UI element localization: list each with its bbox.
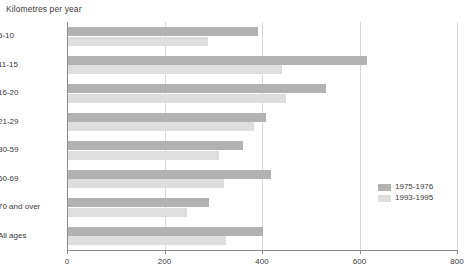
- chart-title: Kilometres per year: [6, 4, 82, 14]
- category-label: 30-59: [0, 145, 60, 154]
- bar: [68, 113, 266, 122]
- bar: [68, 170, 271, 179]
- bar: [68, 236, 226, 245]
- x-tick-label: 400: [255, 257, 268, 266]
- bar: [68, 84, 326, 93]
- bar: [68, 151, 219, 160]
- x-tick-label: 200: [158, 257, 171, 266]
- x-tick-label: 0: [65, 257, 69, 266]
- bar: [68, 94, 286, 103]
- bar: [68, 37, 208, 46]
- x-tick-label: 600: [353, 257, 366, 266]
- bar: [68, 27, 258, 36]
- category-label: 70 and over: [0, 202, 60, 211]
- tick-mark-600: [360, 250, 361, 254]
- plot-area: 0200400600800 5-1011-1516-2021-2930-5960…: [67, 22, 457, 250]
- bar: [68, 208, 187, 217]
- bar: [68, 122, 254, 131]
- category-label: 5-10: [0, 31, 60, 40]
- tick-mark-0: [67, 250, 68, 254]
- bar: [68, 141, 243, 150]
- bar: [68, 65, 282, 74]
- legend-swatch: [378, 195, 391, 202]
- legend-label: 1975-1976: [395, 182, 433, 191]
- category-label: 16-20: [0, 88, 60, 97]
- legend-label: 1993-1995: [395, 193, 433, 202]
- bar: [68, 227, 263, 236]
- gridline-800: [457, 22, 458, 250]
- category-label: 21-29: [0, 117, 60, 126]
- bar: [68, 198, 209, 207]
- x-tick-label: 800: [450, 257, 463, 266]
- chart-container: Kilometres per year 0200400600800 5-1011…: [0, 0, 464, 275]
- tick-mark-800: [457, 250, 458, 254]
- category-label: 60-69: [0, 174, 60, 183]
- tick-mark-200: [165, 250, 166, 254]
- category-label: 11-15: [0, 60, 60, 69]
- tick-mark-400: [262, 250, 263, 254]
- bar: [68, 56, 367, 65]
- bar: [68, 179, 224, 188]
- category-label: All ages: [0, 231, 60, 240]
- legend-swatch: [378, 184, 391, 191]
